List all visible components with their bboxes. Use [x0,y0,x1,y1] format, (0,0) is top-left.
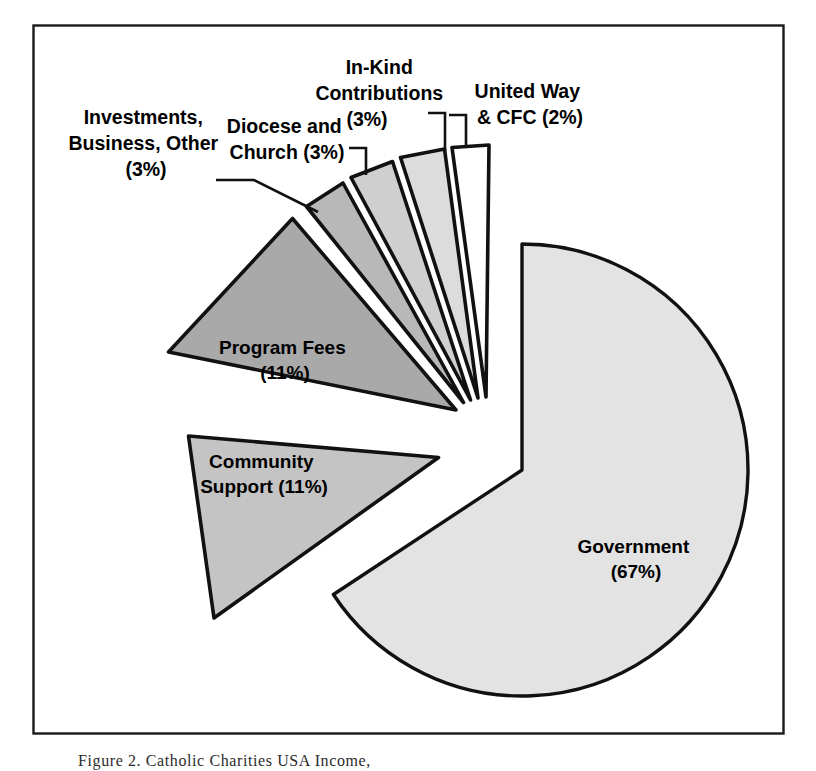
callout-label-diocese-line2: Church (3%) [230,141,345,163]
slice-label-government-line2: (67%) [611,561,662,582]
figure-container: Investments, Business, Other (3%) Dioces… [0,0,816,771]
callout-label-in-kind-line2: Contributions [315,82,443,104]
callout-label-in-kind-line3: (3%) [346,108,387,130]
slice-label-government-line1: Government [577,536,690,557]
callout-label-investments-line2: Business, Other [69,132,219,154]
callout-label-united-way-line2: & CFC (2%) [477,106,583,128]
pie-chart: Investments, Business, Other (3%) Dioces… [0,0,816,771]
slice-label-community-support-line1: Community [209,451,314,472]
callout-label-investments-line1: Investments, [84,106,203,128]
slice-label-program-fees-line2: (11%) [260,362,310,383]
callout-label-diocese-line1: Diocese and [227,115,342,137]
callout-label-in-kind-line1: In-Kind [346,56,413,78]
callout-label-investments-line3: (3%) [125,158,166,180]
figure-caption: Figure 2. Catholic Charities USA Income, [78,752,371,771]
callout-label-united-way-line1: United Way [475,80,581,102]
slice-label-community-support-line2: Support (11%) [200,476,328,497]
slice-label-program-fees-line1: Program Fees [219,337,346,358]
